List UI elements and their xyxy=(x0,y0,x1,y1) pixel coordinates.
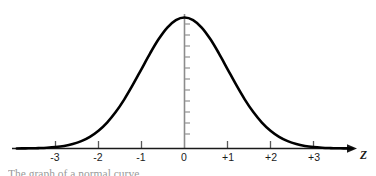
x-tick-label-zero: 0 xyxy=(181,151,187,163)
normal-curve-figure: -3 -2 -1 0 +1 +2 +3 Z The graph of a nor… xyxy=(0,0,376,176)
x-tick-label-plus-2: +2 xyxy=(265,151,277,163)
figure-caption: The graph of a normal curve xyxy=(8,168,368,176)
x-tick-label-minus-3: -3 xyxy=(50,151,59,163)
x-axis-name-label: Z xyxy=(360,149,367,161)
x-tick-label-minus-2: -2 xyxy=(93,151,102,163)
normal-distribution-plot xyxy=(0,0,376,176)
x-tick-label-minus-1: -1 xyxy=(136,151,145,163)
vertical-axis xyxy=(185,14,191,148)
x-tick-label-plus-3: +3 xyxy=(308,151,320,163)
x-tick-label-plus-1: +1 xyxy=(222,151,234,163)
vertical-axis-ticks xyxy=(185,24,190,134)
